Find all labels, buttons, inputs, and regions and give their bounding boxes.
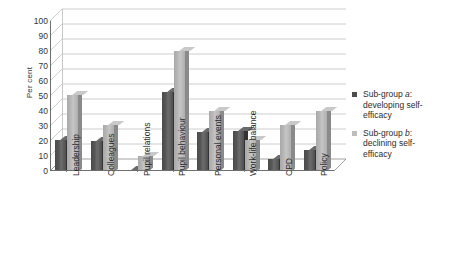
bar-top — [72, 91, 88, 95]
legend-label-line: Sub-group b: — [363, 128, 451, 139]
legend-label-line: declining self- — [363, 138, 451, 149]
y-tick-label: 80 — [39, 47, 48, 56]
bar-face — [91, 141, 102, 171]
x-tick-label: Colleagues — [107, 133, 116, 176]
x-tick-label: CPD — [285, 158, 294, 176]
plot-area — [50, 9, 346, 171]
legend-item[interactable]: Sub-group a:developing self-efficacy — [352, 89, 451, 121]
y-tick-label: 50 — [39, 92, 48, 101]
legend-item[interactable]: Sub-group b:declining self-efficacy — [352, 128, 451, 160]
bar — [91, 141, 102, 171]
bar — [55, 140, 66, 172]
bar-top — [108, 121, 124, 125]
y-tick-label: 100 — [34, 17, 48, 26]
x-tick-label: Leadership — [72, 134, 81, 176]
y-tick-label: 40 — [39, 107, 48, 116]
legend-label-line: Sub-group a: — [363, 89, 451, 100]
bar — [304, 150, 315, 171]
legend-label: Sub-group a:developing self-efficacy — [363, 89, 451, 121]
bar-group — [268, 21, 295, 171]
legend-swatch-icon — [352, 92, 357, 97]
bar — [197, 132, 208, 171]
bar-face — [197, 132, 208, 171]
legend-label-line: efficacy — [363, 110, 451, 121]
bar-top — [214, 107, 230, 111]
x-tick-label: Personal events — [214, 115, 223, 176]
bar-series-container — [50, 21, 334, 171]
y-tick-label: 60 — [39, 77, 48, 86]
x-axis-category-labels: LeadershipColleaguesPupil relationsPupil… — [50, 176, 346, 272]
y-tick-label: 20 — [39, 137, 48, 146]
legend-swatch-icon — [352, 131, 357, 136]
chart-figure: Per cent 1009080706050403020100 Leadersh… — [0, 0, 451, 276]
chart-legend: Sub-group a:developing self-efficacySub-… — [352, 89, 451, 166]
y-tick-label: 70 — [39, 62, 48, 71]
y-tick-label: 30 — [39, 122, 48, 131]
legend-subgroup-letter: b — [405, 128, 410, 138]
legend-label-line: developing self- — [363, 100, 451, 111]
bar-face — [162, 92, 173, 172]
bar-group — [304, 21, 331, 171]
bar-face — [304, 150, 315, 171]
y-tick-label: 90 — [39, 32, 48, 41]
bar — [162, 92, 173, 172]
legend-label-line: efficacy — [363, 149, 451, 160]
x-tick-label: Pupil relations — [143, 123, 152, 176]
bar-face — [55, 140, 66, 172]
x-tick-label: Policy — [320, 153, 329, 176]
bar-top — [285, 121, 301, 125]
x-tick-label: Pupil behaviour — [178, 117, 187, 176]
bar-top — [179, 47, 195, 51]
bar-face — [233, 131, 244, 172]
y-tick-label: 0 — [43, 167, 48, 176]
legend-label: Sub-group b:declining self-efficacy — [363, 128, 451, 160]
legend-subgroup-letter: a — [405, 89, 410, 99]
bar — [233, 131, 244, 172]
y-tick-label: 10 — [39, 152, 48, 161]
y-axis-tick-labels: 1009080706050403020100 — [26, 9, 48, 171]
x-tick-label: Work-life balance — [249, 110, 258, 176]
